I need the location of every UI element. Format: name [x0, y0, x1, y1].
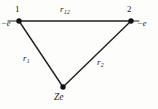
- edge-r1-label-base: r: [23, 53, 27, 63]
- edge-r1-label-subscript: 1: [27, 58, 30, 64]
- vertex-nucleus-dot: [60, 84, 65, 89]
- vertex-1-charge-label: −e: [1, 19, 11, 28]
- edge-r2-label-subscript: 2: [101, 62, 104, 68]
- vertex-1-dot: [16, 18, 21, 23]
- edge-r2-line: [63, 21, 131, 87]
- edge-r1-label: r1: [23, 54, 30, 63]
- figure-container: −e 1 2 −e r12 r1 r2 Ze: [0, 0, 158, 109]
- vertex-2-number-label: 2: [127, 5, 132, 14]
- edge-r2-label-base: r: [97, 57, 101, 67]
- edge-r12-label: r12: [60, 5, 70, 14]
- vertex-2-dot: [128, 18, 133, 23]
- edge-r2-label: r2: [97, 58, 104, 67]
- vertex-1-number-label: 1: [15, 5, 20, 14]
- nucleus-charge-label: Ze: [54, 93, 64, 103]
- edge-r12-label-subscript: 12: [64, 9, 70, 15]
- edge-r12-label-base: r: [60, 4, 64, 14]
- vertex-2-charge-label: −e: [137, 19, 147, 28]
